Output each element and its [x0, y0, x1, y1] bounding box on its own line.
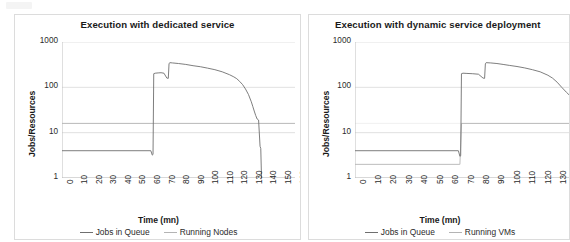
x-tick-label: 20 [389, 175, 398, 184]
chart-title-dynamic: Execution with dynamic service deploymen… [335, 19, 569, 30]
legend-line-icon [365, 232, 378, 233]
x-tick-label: 110 [226, 171, 235, 184]
x-tick-label: 80 [182, 175, 191, 184]
y-tick-label: 100 [315, 81, 351, 90]
legend-item-jobs-in-queue[interactable]: Jobs in Queue [80, 227, 150, 237]
x-tick-label: 100 [513, 170, 522, 184]
x-tick-label: 70 [168, 175, 177, 184]
x-tick-label: 0 [66, 179, 75, 184]
legend-label: Running VMs [465, 227, 515, 237]
y-tick-label: 1000 [315, 36, 351, 45]
x-tick-label: 30 [109, 175, 118, 184]
y-tick-label: 10 [315, 127, 351, 136]
x-tick-label: 150 [284, 170, 293, 184]
x-tick-label: 130 [559, 170, 568, 184]
x-tick-label: 60 [153, 175, 162, 184]
legend-item-running-vms[interactable]: Running VMs [449, 227, 515, 237]
x-tick-label: 140 [269, 170, 278, 184]
legend-label: Jobs in Queue [381, 227, 435, 237]
x-tick-label: 90 [497, 175, 506, 184]
x-tick-label: 110 [528, 171, 537, 184]
chart-title-dedicated: Execution with dedicated service [15, 19, 300, 30]
x-tick-label: 160 [299, 170, 301, 184]
x-tick-label: 120 [240, 170, 249, 184]
legend-label: Jobs in Queue [96, 227, 150, 237]
x-tick-label: 120 [544, 170, 553, 184]
page-artifact [6, 2, 32, 9]
chart-panel-dynamic: Execution with dynamic service deploymen… [308, 14, 570, 240]
y-tick-label: 1 [22, 172, 58, 181]
x-tick-label: 0 [359, 179, 368, 184]
x-tick-label: 20 [95, 175, 104, 184]
x-tick-label: 60 [451, 175, 460, 184]
x-tick-label: 40 [420, 175, 429, 184]
x-tick-label: 50 [436, 175, 445, 184]
x-tick-label: 80 [482, 175, 491, 184]
legend-line-icon [164, 232, 177, 233]
plot-area-dedicated [62, 42, 295, 178]
y-tick-label: 1 [315, 172, 351, 181]
y-tick-label: 100 [22, 81, 58, 90]
x-tick-label: 30 [405, 175, 414, 184]
x-tick-label: 130 [255, 170, 264, 184]
legend-item-jobs-in-queue[interactable]: Jobs in Queue [365, 227, 435, 237]
x-tick-label: 10 [374, 175, 383, 184]
chart-panel-dedicated: Execution with dedicated service Jobs/Re… [14, 14, 301, 240]
legend-item-running-nodes[interactable]: Running Nodes [164, 227, 238, 237]
x-tick-label: 70 [467, 175, 476, 184]
y-axis-label-dynamic: Jobs/Resources [321, 91, 331, 157]
plot-area-dynamic [355, 42, 570, 178]
x-tick-label: 90 [197, 175, 206, 184]
legend-line-icon [80, 232, 93, 233]
x-axis-label-dynamic: Time (mn) [309, 215, 570, 225]
legend-dynamic: Jobs in Queue Running VMs [309, 227, 570, 237]
legend-dedicated: Jobs in Queue Running Nodes [15, 227, 301, 237]
legend-line-icon [449, 232, 462, 233]
x-tick-label: 40 [124, 175, 133, 184]
x-tick-label: 50 [138, 175, 147, 184]
y-tick-label: 10 [22, 127, 58, 136]
y-tick-label: 1000 [22, 36, 58, 45]
x-axis-label-dedicated: Time (mn) [15, 215, 301, 225]
x-tick-label: 100 [211, 170, 220, 184]
x-tick-label: 10 [80, 175, 89, 184]
plot-svg-dedicated [62, 42, 295, 178]
plot-svg-dynamic [355, 42, 570, 178]
legend-label: Running Nodes [180, 227, 238, 237]
y-axis-label-dedicated: Jobs/Resources [27, 91, 37, 157]
